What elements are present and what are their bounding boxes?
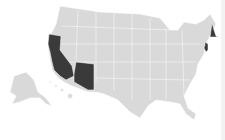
us-states-map	[0, 0, 225, 140]
state-alaska	[10, 72, 52, 106]
